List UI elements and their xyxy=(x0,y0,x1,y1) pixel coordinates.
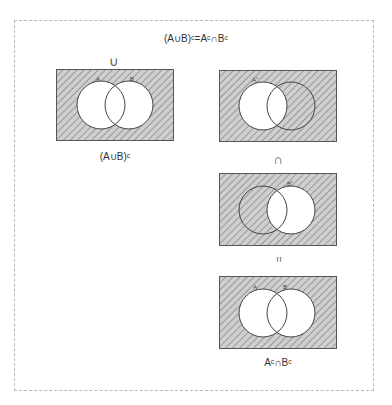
set-b-label: B xyxy=(130,76,134,82)
set-a-label: A xyxy=(96,76,100,82)
venn-a-complement: A c xyxy=(219,70,337,142)
equals-operator: = xyxy=(273,250,284,270)
union-operator: ∪ xyxy=(104,54,124,69)
caption-right: Aᶜ∩Bᶜ xyxy=(219,357,337,368)
venn-b-complement: B c xyxy=(219,173,337,246)
venn-a-union-b-complement: A B xyxy=(56,69,174,141)
identity-title: (A∪B)ᶜ=Aᶜ∩Bᶜ xyxy=(0,33,392,44)
venn-a-complement-intersect-b-complement: A B xyxy=(219,276,337,349)
caption-left: (A∪B)ᶜ xyxy=(56,151,174,162)
svg-text:c: c xyxy=(291,179,293,184)
intersection-operator: ∩ xyxy=(268,152,288,167)
set-a-label: A xyxy=(253,284,257,290)
set-b-label: B xyxy=(283,284,287,290)
svg-text:c: c xyxy=(256,75,258,80)
